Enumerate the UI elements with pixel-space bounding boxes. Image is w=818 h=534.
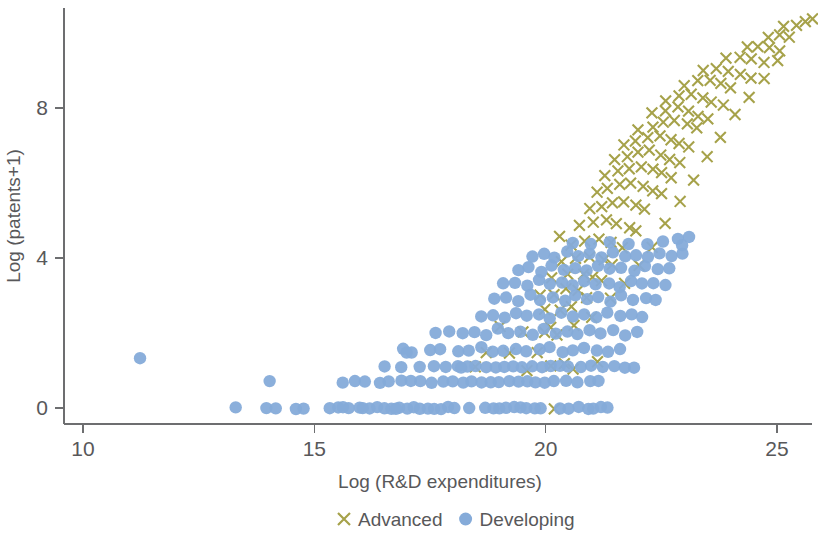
data-point-advanced — [674, 90, 685, 101]
data-point-advanced — [609, 154, 620, 165]
data-point-developing — [134, 352, 146, 364]
data-point-developing — [357, 402, 369, 414]
data-point-advanced — [618, 197, 629, 208]
x-tick-label-20: 20 — [534, 437, 557, 460]
data-point-advanced — [735, 69, 746, 80]
data-point-advanced — [648, 122, 659, 133]
data-point-advanced — [683, 106, 694, 117]
data-point-developing — [613, 281, 625, 293]
data-point-developing — [521, 309, 533, 321]
legend-label-developing: Developing — [480, 509, 575, 530]
data-point-developing — [510, 307, 522, 319]
data-point-developing — [628, 362, 640, 374]
data-point-advanced — [718, 100, 729, 111]
legend-label-advanced: Advanced — [358, 509, 443, 530]
data-point-developing — [533, 308, 545, 320]
data-point-developing — [378, 360, 390, 372]
data-point-advanced — [759, 73, 770, 84]
data-point-advanced — [675, 196, 686, 207]
data-point-developing — [562, 360, 574, 372]
data-point-developing — [592, 375, 604, 387]
data-point-advanced — [599, 170, 610, 181]
data-point-developing — [526, 250, 538, 262]
data-point-advanced — [666, 172, 677, 183]
data-point-advanced — [614, 179, 625, 190]
data-point-developing — [580, 264, 592, 276]
data-point-developing — [463, 344, 475, 356]
data-point-developing — [569, 262, 581, 274]
data-point-advanced — [674, 157, 685, 168]
data-point-developing — [534, 402, 546, 414]
y-tick-label-4: 4 — [36, 246, 48, 269]
data-point-developing — [572, 250, 584, 262]
data-point-advanced — [574, 220, 585, 231]
chart-legend: AdvancedDeveloping — [338, 509, 575, 530]
data-point-developing — [602, 346, 614, 358]
data-point-advanced — [698, 65, 709, 76]
data-point-developing — [583, 324, 595, 336]
legend-marker-circle-icon — [459, 513, 472, 526]
data-point-developing — [502, 327, 514, 339]
data-point-advanced — [673, 102, 684, 113]
legend-item-advanced[interactable]: Advanced — [338, 509, 443, 530]
data-point-developing — [578, 275, 590, 287]
data-point-developing — [550, 327, 562, 339]
data-point-developing — [619, 329, 631, 341]
data-point-developing — [665, 250, 677, 262]
data-point-developing — [337, 376, 349, 388]
data-point-developing — [512, 295, 524, 307]
data-point-developing — [567, 344, 579, 356]
data-point-developing — [480, 329, 492, 341]
data-point-developing — [521, 279, 533, 291]
data-point-developing — [475, 310, 487, 322]
data-point-developing — [626, 308, 638, 320]
data-point-developing — [581, 293, 593, 305]
data-point-developing — [567, 237, 579, 249]
data-point-developing — [487, 309, 499, 321]
data-point-developing — [500, 291, 512, 303]
data-point-developing — [499, 311, 511, 323]
data-point-developing — [649, 294, 661, 306]
data-point-advanced — [688, 175, 699, 186]
data-point-developing — [400, 346, 412, 358]
data-point-developing — [337, 401, 349, 413]
data-point-advanced — [759, 57, 770, 68]
data-point-advanced — [735, 52, 746, 63]
legend-item-developing[interactable]: Developing — [459, 509, 575, 530]
data-point-advanced — [784, 32, 795, 43]
data-point-developing — [543, 312, 555, 324]
data-point-developing — [578, 342, 590, 354]
data-point-advanced — [774, 46, 785, 57]
data-point-developing — [475, 341, 487, 353]
data-point-developing — [556, 276, 568, 288]
data-point-developing — [652, 263, 664, 275]
data-point-developing — [571, 376, 583, 388]
data-point-developing — [603, 263, 615, 275]
data-point-developing — [630, 249, 642, 261]
data-point-advanced — [660, 218, 671, 229]
data-point-advanced — [721, 53, 732, 64]
data-point-developing — [604, 295, 616, 307]
data-point-developing — [594, 327, 606, 339]
data-point-developing — [676, 239, 688, 251]
data-point-developing — [543, 341, 555, 353]
data-point-developing — [455, 361, 467, 373]
data-point-advanced — [679, 80, 690, 91]
data-point-developing — [607, 324, 619, 336]
data-point-developing — [560, 375, 572, 387]
data-point-developing — [631, 326, 643, 338]
data-point-advanced — [746, 53, 757, 64]
data-point-developing — [548, 251, 560, 263]
data-point-advanced — [705, 75, 716, 86]
data-point-advanced — [588, 217, 599, 228]
data-point-developing — [619, 250, 631, 262]
data-point-developing — [622, 238, 634, 250]
data-point-developing — [603, 236, 615, 248]
data-point-developing — [585, 360, 597, 372]
data-point-advanced — [660, 106, 671, 117]
data-point-developing — [548, 375, 560, 387]
data-point-developing — [663, 262, 675, 274]
data-point-advanced — [744, 92, 755, 103]
data-point-developing — [601, 401, 613, 413]
data-point-advanced — [619, 140, 630, 151]
